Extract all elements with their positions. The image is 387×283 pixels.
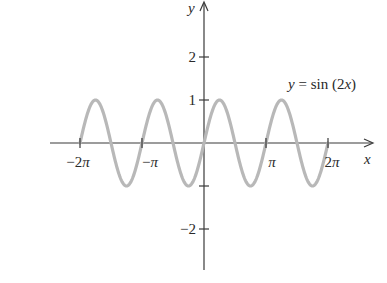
x-axis-label: x: [363, 151, 371, 167]
sine-graph: −2π−ππ2π21−2 y x y = sin (2x): [0, 0, 387, 283]
function-label: y = sin (2x): [286, 76, 356, 93]
x-tick-label-3: 2π: [324, 154, 340, 170]
x-tick-label-1: −π: [142, 154, 158, 170]
function-label-close: ): [351, 76, 356, 93]
y-tick-label-0: 2: [189, 49, 197, 65]
x-tick-label-2: π: [268, 154, 276, 170]
y-axis-label: y: [186, 0, 195, 16]
function-label-y: y: [286, 76, 295, 92]
y-tick-label-1: 1: [189, 92, 197, 108]
axes: [50, 2, 373, 270]
y-tick-label-3: −2: [180, 221, 196, 237]
function-label-eq: = sin (2: [295, 76, 345, 93]
x-tick-label-0: −2π: [66, 154, 90, 170]
